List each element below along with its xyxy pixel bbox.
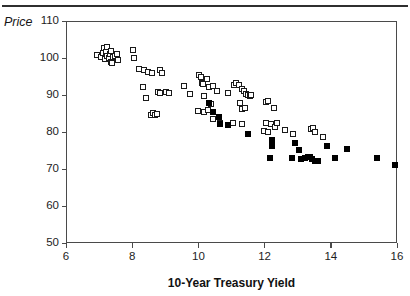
data-point-open <box>239 121 245 127</box>
data-point-open <box>166 90 172 96</box>
data-points-layer <box>67 22 396 242</box>
scatter-plot-figure: Price 1101009080706050 6810121416 10-Yea… <box>0 0 410 296</box>
data-point-open <box>131 55 137 61</box>
plot-area <box>66 21 397 243</box>
data-point-open <box>274 120 280 126</box>
data-point-filled <box>392 162 398 168</box>
data-point-open <box>114 51 120 57</box>
data-point-filled <box>267 155 273 161</box>
data-point-filled <box>216 114 222 120</box>
x-tick-mark <box>264 243 265 248</box>
data-point-filled <box>324 143 330 149</box>
data-point-open <box>248 92 254 98</box>
data-point-open <box>265 129 271 135</box>
data-point-open <box>225 90 231 96</box>
data-point-filled <box>225 122 231 128</box>
data-point-filled <box>374 155 380 161</box>
data-point-open <box>115 57 121 63</box>
x-tick-mark <box>397 243 398 248</box>
y-tick-label: 110 <box>41 15 59 26</box>
data-point-filled <box>289 155 295 161</box>
x-tick-label: 14 <box>311 251 351 262</box>
x-tick-mark <box>66 243 67 248</box>
data-point-filled <box>296 147 302 153</box>
y-tick-label: 90 <box>46 89 59 100</box>
x-tick-label: 6 <box>46 251 86 262</box>
data-point-open <box>271 105 277 111</box>
y-tick-label: 80 <box>46 126 59 137</box>
x-tick-label: 8 <box>112 251 152 262</box>
data-point-open <box>149 70 155 76</box>
data-point-filled <box>245 131 251 137</box>
data-point-filled <box>206 100 212 106</box>
x-tick-label: 10 <box>178 251 218 262</box>
data-point-filled <box>315 158 321 164</box>
data-point-open <box>154 111 160 117</box>
data-point-open <box>130 47 136 53</box>
data-point-open <box>181 83 187 89</box>
x-tick-mark <box>132 243 133 248</box>
data-point-open <box>282 127 288 133</box>
y-axis-title: Price <box>4 15 32 29</box>
x-tick-mark <box>198 243 199 248</box>
data-point-open <box>159 70 165 76</box>
data-point-open <box>242 105 248 111</box>
data-point-filled <box>344 146 350 152</box>
data-point-filled <box>332 155 338 161</box>
y-tick-label: 70 <box>46 163 59 174</box>
data-point-open <box>143 95 149 101</box>
data-point-open <box>265 98 271 104</box>
x-axis-title: 10-Year Treasury Yield <box>66 276 397 290</box>
data-point-filled <box>292 140 298 146</box>
data-point-open <box>204 76 210 82</box>
data-point-open <box>214 88 220 94</box>
data-point-open <box>290 131 296 137</box>
x-tick-label: 12 <box>245 251 285 262</box>
data-point-open <box>320 134 326 140</box>
y-tick-label: 50 <box>46 237 59 248</box>
data-point-open <box>312 129 318 135</box>
data-point-open <box>201 93 207 99</box>
data-point-filled <box>269 143 275 149</box>
data-point-open <box>187 91 193 97</box>
data-point-open <box>140 84 146 90</box>
y-tick-label: 100 <box>40 52 59 63</box>
x-tick-label: 16 <box>377 251 410 262</box>
x-tick-mark <box>330 243 331 248</box>
data-point-filled <box>217 121 223 127</box>
y-tick-label: 60 <box>46 200 59 211</box>
